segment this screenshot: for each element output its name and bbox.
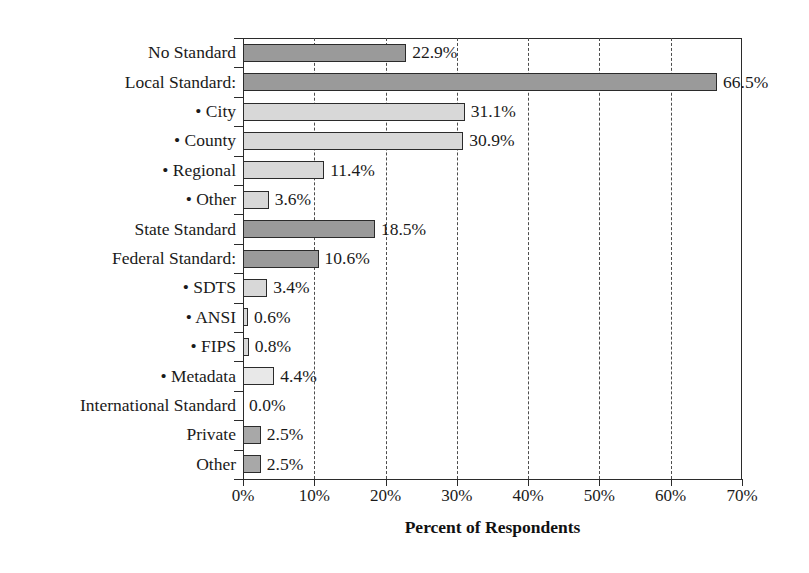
y-tick: [234, 303, 243, 304]
x-axis-title: Percent of Respondents: [243, 517, 742, 538]
y-tick: [234, 273, 243, 274]
x-tick: [599, 479, 600, 486]
bar: [243, 455, 261, 473]
gridline: [599, 38, 600, 479]
category-label: • Regional: [162, 162, 236, 180]
category-label: State Standard: [134, 221, 236, 239]
y-tick: [234, 244, 243, 245]
y-tick: [234, 126, 243, 127]
bar-value-label: 0.6%: [254, 309, 290, 327]
bar-value-label: 3.4%: [273, 279, 309, 297]
x-tick: [671, 479, 672, 486]
x-tick-label: 60%: [636, 486, 706, 506]
bar: [243, 426, 261, 444]
bar: [243, 338, 249, 356]
gridline: [671, 38, 672, 479]
bar: [243, 161, 324, 179]
x-tick: [386, 479, 387, 486]
bar: [243, 103, 465, 121]
x-tick: [243, 479, 244, 486]
bar: [243, 132, 463, 150]
category-label: • County: [174, 132, 236, 150]
category-label: Other: [196, 456, 236, 474]
x-axis-line: [243, 479, 743, 480]
bar-value-label: 22.9%: [412, 44, 457, 62]
y-tick: [234, 185, 243, 186]
bar-value-label: 10.6%: [325, 250, 370, 268]
bar: [243, 250, 319, 268]
bar-value-label: 2.5%: [267, 456, 303, 474]
category-label: • City: [195, 103, 236, 121]
x-tick-label: 30%: [422, 486, 492, 506]
category-label: International Standard: [80, 397, 236, 415]
x-tick-label: 40%: [493, 486, 563, 506]
bar-value-label: 0.8%: [255, 338, 291, 356]
bar-value-label: 0.0%: [249, 397, 285, 415]
y-tick: [234, 332, 243, 333]
category-label: No Standard: [148, 44, 236, 62]
bar: [243, 279, 267, 297]
bar: [243, 191, 269, 209]
category-label: Private: [186, 426, 236, 444]
y-tick: [234, 97, 243, 98]
category-label: • FIPS: [190, 338, 236, 356]
bar-value-label: 66.5%: [723, 74, 768, 92]
x-tick-label: 50%: [564, 486, 634, 506]
y-tick: [234, 420, 243, 421]
bar-value-label: 3.6%: [275, 191, 311, 209]
x-tick: [457, 479, 458, 486]
y-tick: [234, 361, 243, 362]
x-tick: [742, 479, 743, 486]
bar: [243, 220, 375, 238]
y-tick: [234, 67, 243, 68]
category-label: • ANSI: [186, 309, 236, 327]
gridline: [528, 38, 529, 479]
bar: [243, 308, 248, 326]
category-label: • Other: [186, 191, 236, 209]
bar-value-label: 18.5%: [381, 221, 426, 239]
x-tick-label: 0%: [208, 486, 278, 506]
y-tick: [234, 391, 243, 392]
bar-chart: No Standard22.9%Local Standard:66.5%• Ci…: [0, 0, 809, 573]
bar-value-label: 30.9%: [469, 132, 514, 150]
x-tick-label: 20%: [351, 486, 421, 506]
bar: [243, 367, 274, 385]
y-tick: [234, 450, 243, 451]
bar-value-label: 2.5%: [267, 426, 303, 444]
bar-value-label: 11.4%: [330, 162, 375, 180]
category-label: Federal Standard:: [112, 250, 236, 268]
bar-value-label: 31.1%: [471, 103, 516, 121]
x-tick-label: 10%: [279, 486, 349, 506]
x-tick-label: 70%: [707, 486, 777, 506]
y-tick: [234, 479, 243, 480]
category-label: Local Standard:: [125, 74, 236, 92]
x-tick: [314, 479, 315, 486]
bar: [243, 44, 406, 62]
category-label: • SDTS: [183, 279, 236, 297]
category-label: • Metadata: [160, 368, 236, 386]
y-tick: [234, 38, 243, 39]
y-tick: [234, 156, 243, 157]
y-tick: [234, 214, 243, 215]
bar: [243, 73, 717, 91]
bar-value-label: 4.4%: [280, 368, 316, 386]
x-tick: [528, 479, 529, 486]
